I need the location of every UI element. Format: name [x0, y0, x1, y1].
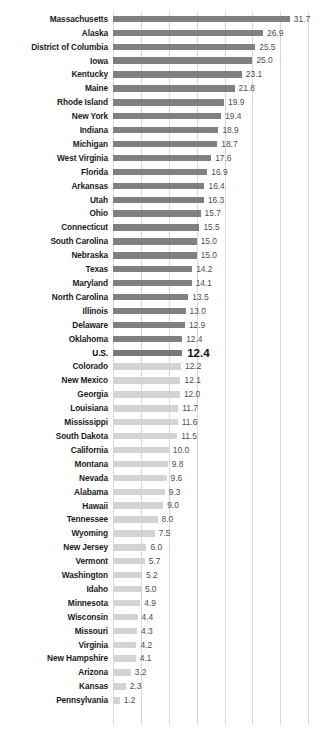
category-label: Minnesota [0, 599, 108, 607]
bar-and-value: 23.1 [113, 68, 324, 82]
value-label: 11.6 [182, 418, 198, 426]
category-label: Idaho [0, 585, 108, 593]
category-label: Rhode Island [0, 98, 108, 106]
bar-and-value: 13.0 [113, 304, 324, 318]
bar-and-value: 12.4 [113, 346, 324, 360]
bar-row: Wyoming7.5 [0, 527, 324, 541]
value-label: 5.0 [145, 585, 157, 593]
bar-row: Oklahoma12.4 [0, 332, 324, 346]
category-label: Indiana [0, 126, 108, 134]
bar-and-value: 11.6 [113, 415, 324, 429]
bar [113, 169, 207, 175]
bar-rows-container: Massachusetts31.7Alaska26.9District of C… [0, 12, 324, 707]
category-label: Alaska [0, 29, 108, 37]
value-label: 5.7 [149, 557, 161, 565]
bar [113, 461, 168, 467]
category-label: Louisiana [0, 404, 108, 412]
category-label: Maryland [0, 279, 108, 287]
value-label: 18.7 [221, 140, 237, 148]
bar [113, 294, 188, 300]
bar [113, 377, 180, 383]
bar-and-value: 12.4 [113, 332, 324, 346]
bar-row: Pennsylvania1.2 [0, 693, 324, 707]
value-label: 11.7 [182, 404, 198, 412]
category-label: North Carolina [0, 293, 108, 301]
category-label: Missouri [0, 627, 108, 635]
value-label: 19.4 [225, 112, 241, 120]
category-label: Tennessee [0, 515, 108, 523]
bar-and-value: 4.4 [113, 610, 324, 624]
bar-and-value: 7.5 [113, 527, 324, 541]
bar-and-value: 10.0 [113, 443, 324, 457]
category-label: Washington [0, 571, 108, 579]
bar-and-value: 16.9 [113, 165, 324, 179]
bar [113, 44, 255, 50]
bar-and-value: 9.0 [113, 499, 324, 513]
bar-row: Louisiana11.7 [0, 401, 324, 415]
bar-and-value: 26.9 [113, 26, 324, 40]
bar [113, 572, 142, 578]
value-label: 25.5 [259, 43, 275, 51]
value-label: 15.7 [205, 209, 221, 217]
value-label: 7.5 [159, 529, 171, 537]
category-label: Delaware [0, 321, 108, 329]
value-label: 1.2 [124, 696, 136, 704]
category-label: Oklahoma [0, 335, 108, 343]
category-label: Wyoming [0, 529, 108, 537]
bar-row: Utah16.3 [0, 193, 324, 207]
value-label: 25.0 [256, 56, 272, 64]
bar-row: Arkansas16.4 [0, 179, 324, 193]
bar [113, 210, 201, 216]
value-label: 15.0 [201, 251, 217, 259]
bar-row: Vermont5.7 [0, 554, 324, 568]
category-label: Colorado [0, 362, 108, 370]
bar-row: Alabama9.3 [0, 485, 324, 499]
bar-and-value: 31.7 [113, 12, 324, 26]
value-label: 17.6 [215, 154, 231, 162]
bar-row: Nevada9.6 [0, 471, 324, 485]
value-label: 8.0 [162, 515, 174, 523]
bar [113, 224, 199, 230]
category-label: Ohio [0, 209, 108, 217]
bar-and-value: 9.8 [113, 457, 324, 471]
bar-and-value: 15.7 [113, 207, 324, 221]
bar [113, 350, 182, 356]
bar [113, 113, 221, 119]
bar-row: South Carolina15.0 [0, 235, 324, 249]
bar-row: Michigan18.7 [0, 137, 324, 151]
bar [113, 336, 182, 342]
bar-row: Missouri4.3 [0, 624, 324, 638]
category-label: District of Columbia [0, 43, 108, 51]
bar-and-value: 12.2 [113, 360, 324, 374]
bar-row: Iowa25.0 [0, 54, 324, 68]
bar-and-value: 13.5 [113, 290, 324, 304]
bar-and-value: 4.9 [113, 596, 324, 610]
bar-and-value: 5.2 [113, 568, 324, 582]
bar-row: Hawaii9.0 [0, 499, 324, 513]
bar [113, 405, 178, 411]
category-label: New Mexico [0, 376, 108, 384]
bar-and-value: 8.0 [113, 513, 324, 527]
bar [113, 642, 136, 648]
category-label: U.S. [0, 349, 108, 357]
bar-row: Rhode Island19.9 [0, 95, 324, 109]
bar-row: Arizona3.2 [0, 666, 324, 680]
bar-row: Connecticut15.5 [0, 221, 324, 235]
bar [113, 197, 204, 203]
value-label: 4.2 [140, 641, 152, 649]
value-label: 16.4 [208, 182, 224, 190]
bar-row: Maryland14.1 [0, 276, 324, 290]
category-label: Nebraska [0, 251, 108, 259]
bar-row: Colorado12.2 [0, 360, 324, 374]
bar-row: Alaska26.9 [0, 26, 324, 40]
bar [113, 697, 120, 703]
bar-row: Illinois13.0 [0, 304, 324, 318]
value-label: 16.9 [211, 168, 227, 176]
bar [113, 558, 145, 564]
bar-row: U.S.12.4 [0, 346, 324, 360]
bar [113, 391, 180, 397]
bar-and-value: 6.0 [113, 540, 324, 554]
bar [113, 252, 197, 258]
value-label: 14.2 [196, 265, 212, 273]
value-label: 14.1 [196, 279, 212, 287]
